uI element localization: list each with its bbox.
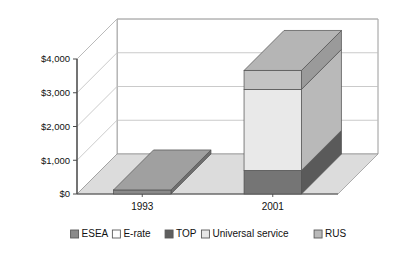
legend-swatch-esea bbox=[71, 230, 79, 238]
bar-front-universal-service bbox=[244, 89, 301, 170]
bar-front-esea bbox=[114, 190, 171, 194]
legend-label-universal-service: Universal service bbox=[212, 228, 289, 239]
legend-label-esea: ESEA bbox=[82, 228, 109, 239]
y-axis-label: $4,000 bbox=[41, 53, 70, 64]
x-axis-label: 2001 bbox=[262, 201, 285, 212]
bar-front-top bbox=[244, 170, 301, 194]
legend-swatch-top bbox=[165, 230, 173, 238]
chart-container: $0$1,000$2,000$3,000$4,00019932001ESEAE-… bbox=[0, 0, 413, 255]
stacked-column-3d-chart: $0$1,000$2,000$3,000$4,00019932001ESEAE-… bbox=[0, 0, 413, 255]
legend-label-top: TOP bbox=[176, 228, 197, 239]
legend-swatch-e-rate bbox=[112, 230, 120, 238]
y-axis-label: $2,000 bbox=[41, 121, 70, 132]
chart-legend: ESEAE-rateTOPUniversal serviceRUS bbox=[71, 228, 347, 239]
x-axis-label: 1993 bbox=[131, 201, 154, 212]
legend-label-e-rate: E-rate bbox=[123, 228, 151, 239]
legend-swatch-rus bbox=[314, 230, 322, 238]
bar-front-rus bbox=[244, 70, 301, 89]
legend-swatch-universal-service bbox=[201, 230, 209, 238]
legend-label-rus: RUS bbox=[325, 228, 346, 239]
y-axis-label: $1,000 bbox=[41, 155, 70, 166]
y-axis-label: $0 bbox=[59, 188, 70, 199]
y-axis-label: $3,000 bbox=[41, 87, 70, 98]
